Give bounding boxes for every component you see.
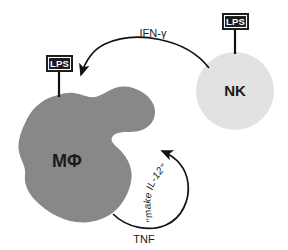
ifn-gamma-label: IFN-γ	[140, 27, 167, 39]
diagram-canvas: MΦ NK LPS LPS IFN-γ TNF	[0, 0, 288, 250]
lps-nk-stimulus: LPS	[222, 13, 249, 54]
macrophage-blob-shape	[18, 87, 155, 223]
ifn-gamma-signal: IFN-γ	[81, 27, 209, 75]
immunology-diagram: MΦ NK LPS LPS IFN-γ TNF	[0, 0, 288, 250]
nk-cell: NK	[196, 52, 274, 130]
macrophage-label: MΦ	[52, 151, 82, 171]
lps-macrophage-label: LPS	[50, 58, 69, 69]
tnf-label: TNF	[133, 233, 155, 245]
lps-macrophage-stimulus: LPS	[46, 55, 73, 97]
lps-nk-label: LPS	[226, 16, 245, 27]
macrophage-cell: MΦ	[18, 87, 155, 223]
make-il12-textpath: "make IL-12"	[142, 162, 169, 224]
ifn-gamma-arrow	[81, 37, 209, 75]
nk-cell-label: NK	[224, 82, 246, 99]
make-il12-label: "make IL-12"	[142, 162, 169, 224]
